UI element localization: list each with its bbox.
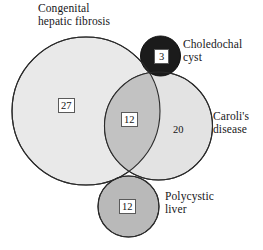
count-polycystic-liver: 12 <box>119 199 136 214</box>
label-congenital-hepatic-fibrosis: Congenital hepatic fibrosis <box>38 2 110 27</box>
label-carolis-disease: Caroli's disease <box>213 110 249 135</box>
label-polycystic-liver: Polycystic liver <box>165 190 214 215</box>
venn-diagram: Congenital hepatic fibrosis Choledochal … <box>0 0 263 250</box>
count-congenital-hepatic-fibrosis: 27 <box>58 98 75 113</box>
count-carolis-disease: 20 <box>170 122 187 137</box>
count-choledochal-cyst: 3 <box>154 49 169 64</box>
label-choledochal-cyst: Choledochal cyst <box>183 38 242 63</box>
count-chf-caroli-intersection: 12 <box>121 112 138 127</box>
